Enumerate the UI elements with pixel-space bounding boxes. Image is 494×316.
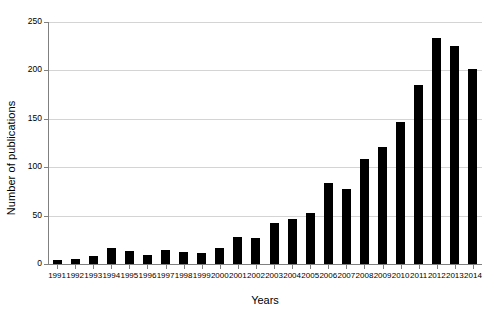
x-axis-tick: [256, 265, 257, 269]
x-axis-tick: [437, 265, 438, 269]
y-axis-tick-label: 250: [12, 17, 42, 27]
bar: [306, 213, 315, 264]
bar: [53, 260, 62, 264]
x-axis-tick: [383, 265, 384, 269]
bar: [270, 223, 279, 264]
y-axis-tick-label-text: 250: [16, 17, 42, 26]
bar: [396, 122, 405, 264]
x-axis-tick: [310, 265, 311, 269]
bar: [432, 38, 441, 265]
x-axis-tick: [129, 265, 130, 269]
x-axis-tick: [93, 265, 94, 269]
bar: [215, 248, 224, 264]
bar: [324, 183, 333, 264]
bar: [107, 248, 116, 264]
publications-per-year-bar-chart: Number of publications 050100150200250 1…: [0, 0, 494, 316]
x-axis-tick: [184, 265, 185, 269]
x-axis-tick: [147, 265, 148, 269]
x-axis-tick: [166, 265, 167, 269]
y-axis-tick-label: 50: [12, 211, 42, 221]
y-axis-tick-label: 100: [12, 162, 42, 172]
x-axis-tick: [238, 265, 239, 269]
y-axis-tick-label-text: 100: [16, 162, 42, 171]
y-axis-tick-label-text: 0: [16, 259, 42, 268]
bar: [125, 251, 134, 264]
x-axis-tick: [292, 265, 293, 269]
x-axis-tick: [346, 265, 347, 269]
bar: [450, 46, 459, 264]
y-axis-tick-label-text: 50: [16, 211, 42, 220]
bar: [161, 250, 170, 264]
bar: [89, 256, 98, 264]
bars-layer: [48, 22, 482, 264]
y-axis-tick-label: 200: [12, 65, 42, 75]
x-axis-line: [48, 264, 482, 265]
bar: [197, 253, 206, 264]
x-axis-tick: [328, 265, 329, 269]
x-axis-tick: [419, 265, 420, 269]
bar: [468, 69, 477, 264]
x-axis-title: Years: [48, 294, 482, 306]
bar: [342, 189, 351, 265]
x-axis-tick-label: 2014: [458, 272, 488, 280]
bar: [288, 219, 297, 264]
bar: [179, 252, 188, 264]
bar: [251, 238, 260, 264]
x-axis-tick: [75, 265, 76, 269]
x-axis-tick: [401, 265, 402, 269]
x-axis-tick: [57, 265, 58, 269]
y-axis-tick-label: 150: [12, 114, 42, 124]
y-axis-tick-label: 0: [12, 259, 42, 269]
bar: [233, 237, 242, 264]
x-axis-tick: [220, 265, 221, 269]
x-axis-tick: [274, 265, 275, 269]
x-axis-tick: [364, 265, 365, 269]
bar: [71, 259, 80, 264]
x-axis-tick: [455, 265, 456, 269]
x-axis-tick: [473, 265, 474, 269]
bar: [143, 255, 152, 264]
bar: [378, 147, 387, 264]
x-axis-tick: [202, 265, 203, 269]
bar: [414, 85, 423, 264]
x-axis-tick: [111, 265, 112, 269]
y-axis-tick-label-text: 150: [16, 114, 42, 123]
y-axis-tick-label-text: 200: [16, 65, 42, 74]
bar: [360, 159, 369, 264]
